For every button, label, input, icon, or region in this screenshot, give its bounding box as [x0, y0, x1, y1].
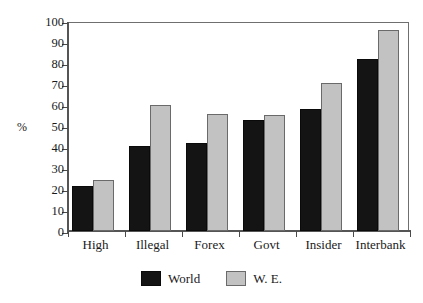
- legend-entry-we: W. E.: [226, 271, 282, 286]
- chart-legend: WorldW. E.: [0, 271, 423, 286]
- bar-illegal-world: [129, 146, 150, 231]
- legend-entry-world: World: [141, 271, 200, 286]
- bar-forex-we: [207, 114, 228, 231]
- y-tick-label: 60: [34, 99, 64, 114]
- x-axis-label-illegal: Illegal: [124, 237, 181, 253]
- y-tick-label: 20: [34, 183, 64, 198]
- bar-chart: % 1009080706050403020100 HighIllegalFore…: [0, 0, 423, 303]
- y-tick-label: 80: [34, 57, 64, 72]
- bar-govt-we: [264, 115, 285, 231]
- x-tick-mark: [410, 231, 411, 237]
- y-tick-label: 100: [34, 15, 64, 30]
- bar-illegal-we: [150, 105, 171, 231]
- x-axis-label-forex: Forex: [181, 237, 238, 253]
- bar-insider-world: [300, 109, 321, 231]
- bar-insider-we: [321, 83, 342, 231]
- bar-interbank-world: [357, 59, 378, 231]
- bar-forex-world: [186, 143, 207, 231]
- y-tick-label: 10: [34, 204, 64, 219]
- bar-high-world: [72, 186, 93, 231]
- x-axis-label-insider: Insider: [295, 237, 352, 253]
- y-axis-title: %: [10, 120, 34, 134]
- black-square-swatch: [141, 271, 161, 286]
- y-tick-label: 50: [34, 120, 64, 135]
- bar-interbank-we: [378, 30, 399, 231]
- y-tick-label: 90: [34, 36, 64, 51]
- x-axis-label-interbank: Interbank: [352, 237, 409, 253]
- x-axis-label-high: High: [67, 237, 124, 253]
- x-axis-label-govt: Govt: [238, 237, 295, 253]
- y-tick-label: 40: [34, 141, 64, 156]
- legend-label: World: [168, 271, 200, 286]
- gray-square-swatch: [226, 271, 246, 286]
- y-tick-label: 0: [34, 225, 64, 240]
- y-tick-label: 70: [34, 78, 64, 93]
- legend-label: W. E.: [253, 271, 282, 286]
- plot-area: 1009080706050403020100: [67, 22, 409, 232]
- y-tick-label: 30: [34, 162, 64, 177]
- bar-high-we: [93, 180, 114, 231]
- bar-govt-world: [243, 120, 264, 231]
